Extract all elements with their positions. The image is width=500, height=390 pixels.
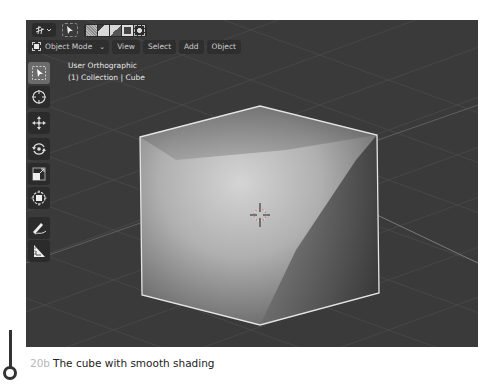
object-mode-icon bbox=[32, 42, 41, 51]
selection-mode-group bbox=[84, 24, 147, 37]
editor-type-button[interactable] bbox=[32, 23, 56, 37]
menu-select[interactable]: Select bbox=[143, 40, 176, 54]
chevron-down-icon: ⌄ bbox=[99, 43, 105, 51]
select-subtract-icon[interactable] bbox=[110, 25, 121, 36]
measure-icon bbox=[31, 243, 47, 259]
figure-caption: 20bThe cube with smooth shading bbox=[30, 357, 215, 369]
tool-measure[interactable] bbox=[28, 240, 50, 262]
caption-marker-icon bbox=[3, 366, 17, 380]
annotate-icon bbox=[31, 220, 47, 236]
select-new-icon[interactable] bbox=[86, 25, 97, 36]
select-intersect-icon[interactable] bbox=[134, 25, 145, 36]
select-extend-icon[interactable] bbox=[98, 25, 109, 36]
tool-scale[interactable] bbox=[28, 163, 50, 185]
viewport-info-overlay: User Orthographic (1) Collection | Cube bbox=[68, 60, 145, 84]
figure-number: 20b bbox=[30, 357, 50, 369]
viewport-header-menus: Object Mode ⌄ View Select Add Object bbox=[26, 39, 241, 54]
scale-icon bbox=[31, 166, 47, 182]
tool-move[interactable] bbox=[28, 112, 50, 134]
menu-object[interactable]: Object bbox=[207, 40, 241, 54]
grid-editor-icon bbox=[35, 25, 53, 35]
select-tool-button[interactable] bbox=[62, 23, 78, 37]
cube-object[interactable] bbox=[140, 106, 379, 325]
tool-annotate[interactable] bbox=[28, 217, 50, 239]
menu-add[interactable]: Add bbox=[179, 40, 204, 54]
mode-dropdown[interactable]: Object Mode ⌄ bbox=[28, 40, 109, 54]
cursor-icon bbox=[31, 89, 47, 105]
tool-transform[interactable] bbox=[28, 187, 50, 209]
view-name: User Orthographic bbox=[68, 60, 145, 72]
rotate-icon bbox=[31, 141, 47, 157]
tool-select-box[interactable] bbox=[28, 62, 50, 84]
select-invert-icon[interactable] bbox=[122, 25, 133, 36]
cursor-select-icon bbox=[66, 26, 74, 35]
mode-label: Object Mode bbox=[45, 42, 92, 51]
viewport-header-top bbox=[32, 22, 147, 38]
tool-rotate[interactable] bbox=[28, 138, 50, 160]
select-box-icon bbox=[31, 65, 47, 81]
tool-cursor[interactable] bbox=[28, 86, 50, 108]
transform-icon bbox=[31, 190, 47, 206]
collection-info: (1) Collection | Cube bbox=[68, 72, 145, 84]
menu-view[interactable]: View bbox=[112, 40, 140, 54]
caption-leader-line bbox=[9, 330, 12, 370]
move-icon bbox=[31, 115, 47, 131]
caption-text: The cube with smooth shading bbox=[53, 357, 215, 369]
3d-viewport[interactable]: Object Mode ⌄ View Select Add Object Use… bbox=[26, 20, 478, 347]
